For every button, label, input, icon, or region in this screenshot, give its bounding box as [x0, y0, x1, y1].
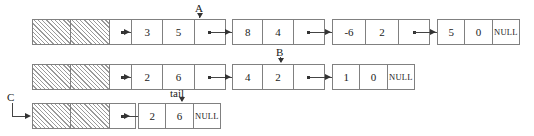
node-1-0-data-1: 1: [333, 65, 360, 89]
row-1-arrowhead-3: [430, 29, 436, 35]
row-1-arrowhead-head: [124, 29, 130, 35]
node-5-0-data-1: 5: [438, 20, 465, 44]
row-3-arrowhead-head: [124, 113, 130, 119]
row-1-head-struct: [32, 19, 136, 45]
node-4-2-data-1: 4: [233, 65, 263, 89]
node-3-5-data-2: 5: [163, 20, 194, 44]
row-1-head-cell-1: [33, 20, 71, 44]
node-5-0: 5 0 NULL: [437, 19, 520, 45]
node-neg6-2-data-2: 2: [366, 20, 399, 44]
row-2-head-cell-1: [33, 65, 71, 89]
row-1-head-cell-2: [71, 20, 109, 44]
node-8-4-data-1: 8: [233, 20, 263, 44]
row-2-arrowhead-1: [225, 74, 231, 80]
label-C-stem-vertical: [12, 103, 13, 116]
node-4-2-data-2: 2: [263, 65, 293, 89]
row-2-head-cell-2: [71, 65, 109, 89]
node-2-6-b: 2 6 NULL: [138, 103, 221, 129]
label-C: C: [7, 92, 14, 103]
node-5-0-next-null: NULL: [493, 20, 519, 44]
node-2-6-a-data-2: 6: [163, 65, 194, 89]
label-A-arrowhead: [197, 13, 203, 18]
node-2-6-a-data-1: 2: [132, 65, 163, 89]
node-2-6-b-next-null: NULL: [194, 104, 220, 128]
node-1-0-data-2: 0: [360, 65, 387, 89]
node-8-4-data-2: 4: [263, 20, 293, 44]
label-B-arrowhead: [278, 58, 284, 63]
diagram-canvas: 3 5 A 8 4 -6 2 5 0 NULL: [0, 0, 534, 136]
node-5-0-data-2: 0: [465, 20, 492, 44]
node-1-0-next-null: NULL: [388, 65, 414, 89]
node-1-0: 1 0 NULL: [332, 64, 415, 90]
node-neg6-2-data-1: -6: [333, 20, 366, 44]
node-2-6-b-data-1: 2: [139, 104, 166, 128]
row-3-head-struct: [32, 103, 136, 129]
row-2-arrowhead-head: [124, 74, 130, 80]
row-1-arrowhead-2: [325, 29, 331, 35]
row-3-head-cell-2: [71, 104, 109, 128]
label-tail-arrowhead: [179, 97, 185, 102]
node-3-5-data-1: 3: [132, 20, 163, 44]
row-2-head-struct: [32, 64, 136, 90]
row-3-head-cell-1: [33, 104, 71, 128]
row-2-arrowhead-2: [325, 74, 331, 80]
node-2-6-b-data-2: 6: [166, 104, 193, 128]
label-C-arrowhead: [25, 113, 31, 119]
row-1-arrowhead-1: [225, 29, 231, 35]
